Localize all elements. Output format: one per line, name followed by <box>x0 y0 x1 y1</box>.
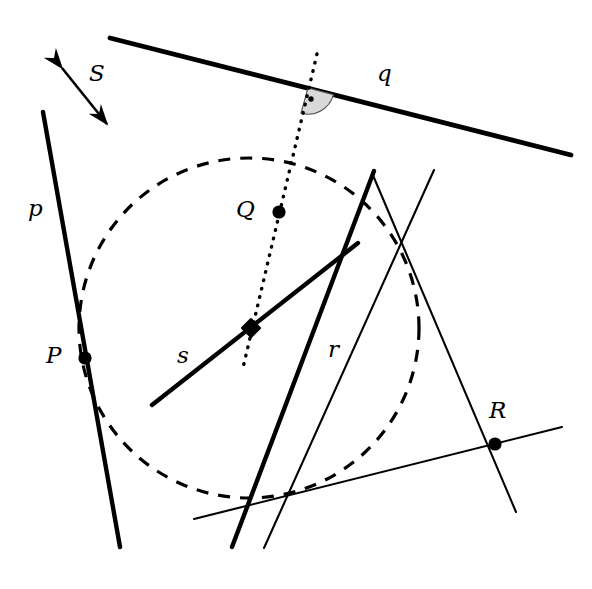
label-point-R: R <box>489 399 506 422</box>
line-p <box>43 112 120 547</box>
label-line-s: s <box>177 344 189 367</box>
thin-line-secant-lower-left <box>264 170 434 548</box>
line-q <box>110 38 571 155</box>
geometry-canvas <box>0 0 592 589</box>
label-line-p: p <box>28 197 43 220</box>
label-vector-S: S <box>89 62 105 85</box>
label-point-P: P <box>46 344 61 367</box>
point-Q-dot <box>272 205 285 218</box>
label-line-q: q <box>377 62 392 85</box>
line-r <box>232 171 374 547</box>
point-P-dot <box>78 351 91 364</box>
right-angle-marker-dot <box>308 96 313 101</box>
label-point-Q: Q <box>236 198 255 221</box>
point-R-dot <box>488 437 501 450</box>
label-line-r: r <box>328 338 339 361</box>
geometry-figure: p q r s S P Q R <box>0 0 592 589</box>
thin-line-through-R-steep <box>372 173 516 512</box>
